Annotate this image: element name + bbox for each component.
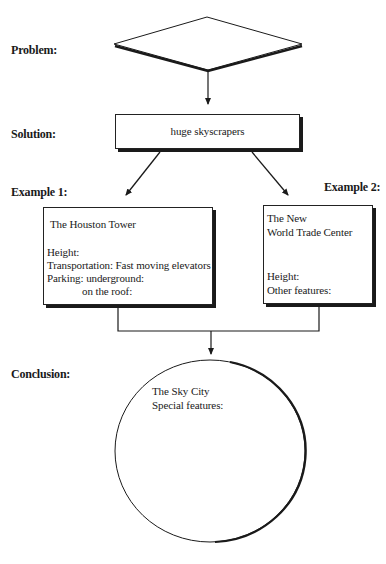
example-1-roof: on the roof: <box>82 285 132 299</box>
example-2-height: Height: <box>267 270 299 284</box>
label-example-2: Example 2: <box>324 180 380 194</box>
label-solution: Solution: <box>11 127 56 141</box>
connector-examples-to-conclusion <box>118 307 319 331</box>
conclusion-circle <box>115 360 306 542</box>
example-1-box: The Houston Tower Height: Transportation… <box>43 207 213 305</box>
example-1-parking: Parking: underground: <box>47 272 144 286</box>
arrow-solution-to-example1 <box>126 152 160 195</box>
example-1-title: The Houston Tower <box>50 218 136 232</box>
label-example-1: Example 1: <box>11 185 67 199</box>
arrow-solution-to-example2 <box>252 152 288 195</box>
problem-diamond <box>114 17 302 71</box>
solution-text: huge skyscrapers <box>116 125 299 139</box>
solution-box: huge skyscrapers <box>115 114 300 149</box>
example-2-other-features: Other features: <box>267 284 331 298</box>
example-2-title-line-1: The New <box>267 212 307 226</box>
example-1-height: Height: <box>47 246 79 260</box>
label-problem: Problem: <box>11 43 57 57</box>
conclusion-special-features: Special features: <box>152 399 223 413</box>
example-1-transportation: Transportation: Fast moving elevators <box>47 259 211 273</box>
example-2-box: The New World Trade Center Height: Other… <box>263 205 373 304</box>
example-2-title-line-2: World Trade Center <box>267 226 352 240</box>
conclusion-title: The Sky City <box>152 385 209 399</box>
label-conclusion: Conclusion: <box>11 367 70 381</box>
